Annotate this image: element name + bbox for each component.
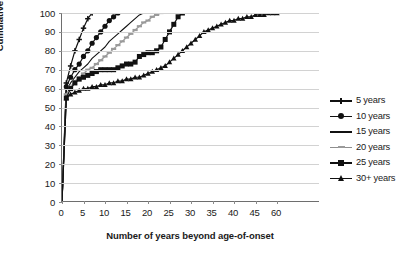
- legend-line: [330, 131, 352, 132]
- x-axis-tick: [234, 201, 235, 204]
- legend-label: 30+ years: [356, 174, 395, 183]
- legend-item-15-years[interactable]: 15 years: [330, 124, 416, 140]
- legend-marker-circle-icon: [338, 113, 344, 119]
- x-axis-tick: [105, 201, 106, 204]
- y-axis-tick-label: 30: [21, 141, 55, 151]
- y-axis-tick: [59, 51, 62, 52]
- legend-marker-dash-icon: [338, 146, 345, 149]
- legend-item-25-years[interactable]: 25 years: [330, 155, 416, 171]
- y-axis-tick: [59, 32, 62, 33]
- gridline: [62, 13, 319, 14]
- data-point-marker: [81, 75, 86, 80]
- data-point-marker: [111, 48, 116, 50]
- gridline: [62, 126, 319, 127]
- data-point-marker: [124, 62, 129, 67]
- plot-area: [61, 13, 319, 202]
- x-axis-tick-label: 60: [264, 208, 288, 218]
- data-point-marker: [81, 54, 86, 59]
- y-axis-tick: [59, 126, 62, 127]
- x-axis-tick-label: 35: [200, 208, 224, 218]
- x-axis-tick-label: 30: [178, 208, 202, 218]
- data-point-marker: [90, 71, 95, 76]
- cumulative-percent-chart: Cumulative percent 010203040506070809010…: [0, 0, 417, 260]
- x-axis-tick: [256, 201, 257, 204]
- data-point-marker: [98, 59, 103, 61]
- y-axis-title: Cumulative percent: [0, 0, 5, 68]
- data-point-marker: [154, 14, 159, 16]
- legend-item-5-years[interactable]: 5 years: [330, 93, 416, 109]
- legend-item-10-years[interactable]: 10 years: [330, 109, 416, 125]
- legend-label: 5 years: [356, 96, 385, 105]
- legend-marker-square-icon: [338, 160, 344, 166]
- data-point-marker: [90, 41, 95, 46]
- x-axis-tick: [148, 201, 149, 204]
- legend-swatch: [330, 157, 352, 168]
- gridline: [62, 51, 319, 52]
- y-axis-tick-label: 0: [21, 198, 55, 208]
- data-point-marker: [137, 25, 142, 27]
- data-point-marker: [85, 73, 90, 78]
- y-axis-tick: [59, 183, 62, 184]
- y-axis-tick: [59, 202, 62, 203]
- y-axis-tick: [59, 89, 62, 90]
- y-axis-tick-label: 100: [21, 9, 55, 19]
- data-point-marker: [77, 37, 82, 42]
- legend-label: 10 years: [356, 112, 390, 121]
- legend-swatch: [330, 95, 352, 106]
- data-point-marker: [68, 75, 73, 80]
- data-point-marker: [111, 14, 116, 19]
- data-point-marker: [81, 25, 86, 30]
- legend-swatch: [330, 111, 352, 122]
- y-axis-tick-label: 70: [21, 65, 55, 75]
- data-point-marker: [124, 36, 129, 38]
- data-point-marker: [137, 54, 142, 59]
- x-axis-tick: [213, 201, 214, 204]
- x-axis-tick-label: 20: [135, 208, 159, 218]
- data-point-marker: [120, 40, 125, 42]
- data-point-marker: [176, 14, 181, 19]
- data-point-marker: [90, 67, 95, 69]
- data-point-marker: [94, 63, 99, 65]
- x-axis-tick: [170, 201, 171, 204]
- chart-legend: 5 years10 years15 years20 years25 years3…: [330, 93, 416, 186]
- legend-swatch: [330, 142, 352, 153]
- legend-label: 20 years: [356, 143, 390, 152]
- x-axis-tick-label: 10: [92, 208, 116, 218]
- x-axis-tick: [127, 201, 128, 204]
- y-axis-tick-label: 40: [21, 122, 55, 132]
- data-point-marker: [77, 61, 82, 66]
- legend-swatch: [330, 126, 352, 137]
- y-axis-tick-label: 60: [21, 84, 55, 94]
- x-axis-tick: [277, 201, 278, 204]
- data-point-marker: [141, 52, 146, 57]
- x-axis-tick: [62, 201, 63, 204]
- gridline: [62, 164, 319, 165]
- gridline: [62, 183, 319, 184]
- y-axis-tick-label: 20: [21, 160, 55, 170]
- data-point-marker: [68, 63, 73, 68]
- data-point-marker: [150, 16, 155, 18]
- data-point-marker: [128, 33, 133, 35]
- data-point-marker: [94, 35, 99, 40]
- x-axis-tick-label: 5: [71, 208, 95, 218]
- gridline: [62, 70, 319, 71]
- data-point-marker: [133, 60, 138, 65]
- data-point-marker: [72, 80, 77, 85]
- legend-item-30-years[interactable]: 30+ years: [330, 171, 416, 187]
- y-axis-tick: [59, 70, 62, 71]
- legend-marker-cross-icon: [338, 98, 344, 104]
- data-point-marker: [128, 62, 133, 67]
- y-axis-tick-label: 80: [21, 46, 55, 56]
- legend-label: 25 years: [356, 158, 390, 167]
- legend-swatch: [330, 173, 352, 184]
- legend-item-20-years[interactable]: 20 years: [330, 140, 416, 156]
- data-point-marker: [102, 24, 107, 29]
- data-point-marker: [163, 37, 168, 42]
- x-axis-title: Number of years beyond age-of-onset: [61, 230, 319, 241]
- data-point-marker: [107, 52, 112, 54]
- x-axis-tick-label: 25: [157, 208, 181, 218]
- data-point-marker: [77, 77, 82, 82]
- gridline: [62, 108, 319, 109]
- gridline: [62, 145, 319, 146]
- y-axis-tick-label: 90: [21, 27, 55, 37]
